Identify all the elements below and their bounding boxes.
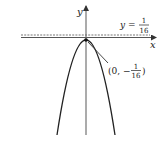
directrix-denominator: 16 [140, 27, 149, 35]
vertex-label-open: (0, − [108, 66, 131, 76]
vertex-leader-line [88, 42, 108, 63]
directrix-label: y = 1 16 [119, 17, 149, 35]
vertex-point [84, 38, 88, 42]
vertex-denominator: 16 [132, 72, 141, 80]
directrix-numerator: 1 [142, 17, 146, 25]
directrix-label-prefix: y = [119, 20, 136, 30]
vertex-label-close: ) [142, 66, 146, 76]
parabola-diagram: y x y = 1 16 (0, − 1 16 ) [0, 0, 165, 144]
x-axis-label: x [150, 39, 156, 50]
vertex-label: (0, − 1 16 ) [108, 63, 146, 81]
y-axis-label: y [76, 6, 83, 17]
vertex-numerator: 1 [134, 63, 138, 71]
